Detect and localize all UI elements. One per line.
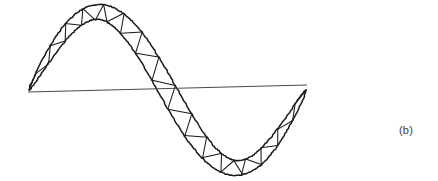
truss-web-member xyxy=(65,24,66,40)
sine-truss-drawing xyxy=(0,0,438,181)
figure-caption-label: (b) xyxy=(399,125,413,136)
truss-web-member xyxy=(221,154,222,173)
figure-container: (b) xyxy=(0,0,438,181)
